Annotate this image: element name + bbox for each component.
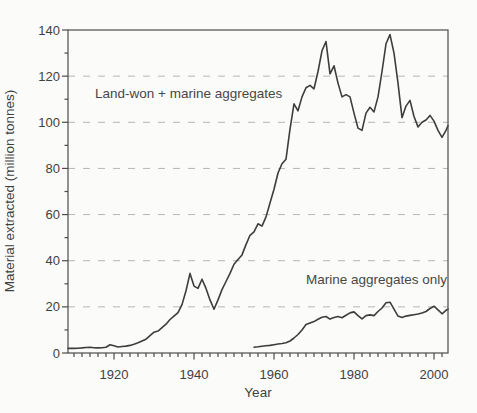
x-tick-label-1920: 1920 [100, 367, 129, 382]
annotation-land-won-plus-marine: Land-won + marine aggregates [95, 86, 282, 101]
series-line-marine_only [254, 302, 448, 347]
x-tick-label-1980: 1980 [340, 367, 369, 382]
x-tick-label-1960: 1960 [260, 367, 289, 382]
y-tick-label-100: 100 [38, 115, 60, 130]
series-line-land_won_plus_marine [68, 35, 448, 349]
y-tick-label-140: 140 [38, 23, 60, 38]
x-tick-label-2000: 2000 [420, 367, 449, 382]
annotation-marine-only: Marine aggregates only [306, 272, 447, 287]
data-series-lines [68, 35, 448, 349]
aggregates-extraction-line-chart: 02040608010012014019201940196019802000 M… [0, 0, 477, 413]
y-tick-label-40: 40 [46, 253, 60, 268]
chart-figure: 02040608010012014019201940196019802000 M… [0, 0, 477, 413]
y-tick-label-20: 20 [46, 299, 60, 314]
axis-ticks [62, 30, 442, 360]
x-axis-title: Year [244, 385, 272, 400]
y-tick-label-120: 120 [38, 69, 60, 84]
y-tick-label-80: 80 [46, 161, 60, 176]
y-axis-title: Material extracted (million tonnes) [2, 90, 17, 293]
y-tick-label-60: 60 [46, 207, 60, 222]
x-tick-label-1940: 1940 [180, 367, 209, 382]
y-tick-label-0: 0 [53, 346, 60, 361]
